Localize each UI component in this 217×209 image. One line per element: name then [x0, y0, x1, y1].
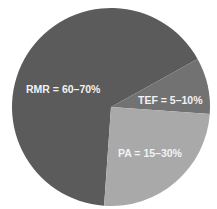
label-pa: PA = 15–30%: [118, 147, 183, 159]
pie-chart: RMR = 60–70% TEF = 5–10% PA = 15–30%: [0, 0, 217, 209]
label-rmr: RMR = 60–70%: [26, 83, 101, 95]
label-tef: TEF = 5–10%: [138, 94, 203, 106]
